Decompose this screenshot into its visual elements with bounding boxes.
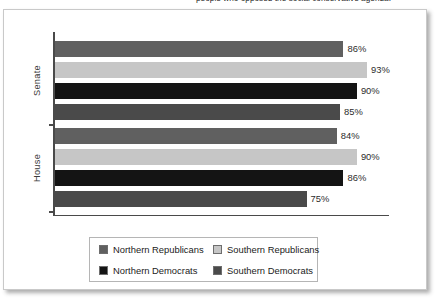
bar bbox=[55, 191, 307, 207]
bar-value-label: 86% bbox=[347, 41, 366, 57]
bar bbox=[55, 170, 344, 186]
category-label-house: House bbox=[32, 128, 46, 207]
axis-tick bbox=[49, 124, 53, 126]
bar bbox=[55, 149, 357, 165]
bar bbox=[55, 128, 337, 144]
legend-swatch-icon bbox=[99, 245, 108, 254]
chart-legend: Northern Republicans Southern Republican… bbox=[89, 237, 318, 282]
bar-value-label: 85% bbox=[344, 104, 363, 120]
bar-value-label: 75% bbox=[311, 191, 330, 207]
legend-item-northern-democrats[interactable]: Northern Democrats bbox=[99, 261, 197, 280]
bar bbox=[55, 104, 341, 120]
bar bbox=[55, 83, 357, 99]
legend-item-southern-republicans[interactable]: Southern Republicans bbox=[213, 240, 319, 259]
bar-value-label: 90% bbox=[361, 83, 380, 99]
legend-label: Northern Democrats bbox=[113, 265, 197, 276]
category-label-senate: Senate bbox=[32, 41, 46, 120]
clipped-caption: people who opposed the social conservati… bbox=[0, 0, 440, 9]
legend-swatch-icon bbox=[213, 245, 222, 254]
bar-value-label: 86% bbox=[347, 170, 366, 186]
legend-swatch-icon bbox=[213, 266, 222, 275]
caption-text: people who opposed the social conservati… bbox=[196, 0, 391, 3]
legend-row: Northern Republicans Southern Republican… bbox=[90, 240, 317, 259]
legend-label: Southern Republicans bbox=[227, 244, 319, 255]
y-axis-line bbox=[53, 32, 55, 216]
legend-row: Northern Democrats Southern Democrats bbox=[90, 261, 317, 280]
bar bbox=[55, 62, 367, 78]
bar bbox=[55, 41, 344, 57]
legend-item-southern-democrats[interactable]: Southern Democrats bbox=[213, 261, 313, 280]
x-axis-line bbox=[53, 215, 389, 217]
bar-value-label: 90% bbox=[361, 149, 380, 165]
legend-swatch-icon bbox=[99, 266, 108, 275]
chart-figure-frame: SenateHouse 86%93%90%85%84%90%86%75% Nor… bbox=[3, 9, 427, 290]
legend-item-northern-republicans[interactable]: Northern Republicans bbox=[99, 240, 204, 259]
plot-area: SenateHouse 86%93%90%85%84%90%86%75% bbox=[53, 32, 389, 216]
bar-value-label: 93% bbox=[371, 62, 390, 78]
legend-label: Southern Democrats bbox=[227, 265, 313, 276]
bar-value-label: 84% bbox=[341, 128, 360, 144]
legend-label: Northern Republicans bbox=[113, 244, 204, 255]
axis-tick bbox=[49, 211, 53, 213]
